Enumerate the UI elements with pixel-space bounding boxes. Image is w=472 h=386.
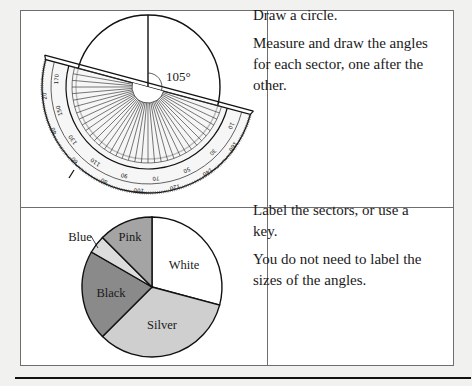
step-1-instruction-b: Measure and draw the angles for each sec… xyxy=(253,33,431,96)
svg-text:170: 170 xyxy=(53,73,60,84)
svg-text:70: 70 xyxy=(152,175,160,182)
protractor-figure: 10 30 50 70 90 110 130 150 170 160 140 1… xyxy=(16,15,253,218)
pie-chart: White Silver Black Blue Pink xyxy=(68,217,222,357)
label-pink: Pink xyxy=(119,230,143,244)
label-silver: Silver xyxy=(147,318,178,332)
step-1-instruction-a: Draw a circle. xyxy=(253,5,431,26)
step-2-instruction-a: Label the sectors, or use a key. xyxy=(253,200,431,242)
pencil-mark xyxy=(69,170,74,178)
bottom-rule xyxy=(15,377,471,379)
svg-text:20: 20 xyxy=(41,92,48,100)
svg-text:100: 100 xyxy=(133,187,144,194)
step-2-instruction-b: You do not need to label the sizes of th… xyxy=(253,249,431,291)
step-2-text: Label the sectors, or use a key. You do … xyxy=(253,200,431,298)
label-black: Black xyxy=(96,286,126,300)
angle-label: 105° xyxy=(166,69,191,84)
step-1-text: Draw a circle. Measure and draw the angl… xyxy=(253,5,431,103)
label-blue: Blue xyxy=(68,230,92,244)
label-white: White xyxy=(169,258,200,272)
